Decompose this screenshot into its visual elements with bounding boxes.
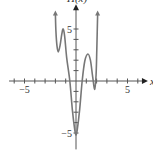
series-arrow-start bbox=[53, 10, 58, 15]
x-axis-arrow bbox=[142, 78, 148, 84]
y-tick-label: 5 bbox=[67, 24, 72, 35]
y-tick-label: −5 bbox=[61, 128, 72, 139]
x-axis-label: x bbox=[149, 75, 153, 87]
y-axis-arrow bbox=[73, 4, 79, 10]
series-line bbox=[55, 14, 97, 135]
x-tick-label: 5 bbox=[125, 84, 130, 95]
axes bbox=[9, 4, 148, 149]
y-axis-label: H(x) bbox=[66, 0, 87, 5]
series-arrow-end bbox=[95, 10, 100, 15]
x-tick-label: −5 bbox=[19, 84, 30, 95]
chart: −555−5 x H(x) bbox=[0, 0, 153, 152]
